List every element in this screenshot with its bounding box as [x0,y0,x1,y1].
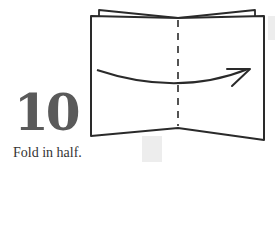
step-instruction: Fold in half. [13,145,82,161]
step-number: 10 [14,88,78,138]
